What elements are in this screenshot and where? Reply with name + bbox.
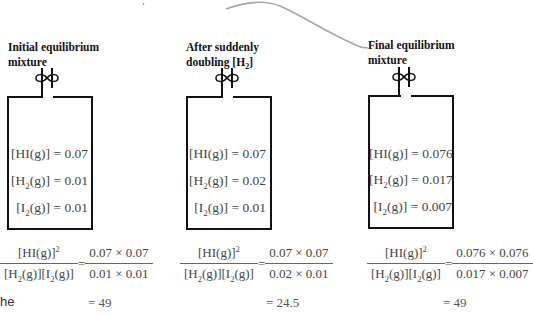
numerator: [HI(g)]2 xyxy=(194,244,244,263)
title-line-1: After suddenly xyxy=(186,40,259,55)
denominator: [H2(g)][I2(g)] xyxy=(180,263,258,284)
conc-hi: [HI(g)] = 0.076 xyxy=(369,146,452,162)
stray-text: he xyxy=(0,294,14,309)
denominator: [H2(g)][I2(g)] xyxy=(367,263,445,284)
equilibrium-expression: [HI(g)]2 [H2(g)][I2(g)] = 0.076 × 0.076 … xyxy=(367,244,533,284)
flask-neck-gap xyxy=(223,88,233,98)
conc-value: 0.007 xyxy=(422,199,452,214)
equals-sign: = xyxy=(258,256,265,272)
equals-sign: = xyxy=(78,256,85,272)
value-fraction: 0.076 × 0.076 0.017 × 0.007 xyxy=(452,245,532,282)
value-fraction: 0.07 × 0.07 0.01 × 0.01 xyxy=(85,245,152,282)
flask-neck-gap xyxy=(401,87,411,97)
numerator-values: 0.076 × 0.076 xyxy=(452,245,532,263)
conc-value: 0.076 xyxy=(422,146,452,161)
result: = 49 xyxy=(88,295,112,311)
conc-i2: [I2(g)] = 0.007 xyxy=(369,199,452,217)
equals-sign: = xyxy=(445,256,452,272)
result: = 24.5 xyxy=(266,295,299,311)
conc-value: 0.07 xyxy=(242,146,266,161)
conc-value: 0.01 xyxy=(64,173,88,188)
numerator: [HI(g)]2 xyxy=(14,244,64,263)
panel-initial: Initial equilibrium mixture [HI(g)] = 0.… xyxy=(0,0,170,314)
conc-i2: [I2(g)] = 0.01 xyxy=(10,200,88,218)
denominator-values: 0.01 × 0.01 xyxy=(85,263,152,282)
conc-hi: [HI(g)] = 0.07 xyxy=(10,146,88,162)
numerator-values: 0.07 × 0.07 xyxy=(265,245,332,263)
equilibrium-expression: [HI(g)]2 [H2(g)][I2(g)] = 0.07 × 0.07 0.… xyxy=(180,244,333,284)
title-line-2: mixture xyxy=(368,53,455,68)
numerator-values: 0.07 × 0.07 xyxy=(85,245,152,263)
conc-value: 0.017 xyxy=(422,172,452,187)
conc-value: 0.07 xyxy=(64,146,88,161)
species-fraction: [HI(g)]2 [H2(g)][I2(g)] xyxy=(0,244,78,284)
panel-final: Final equilibrium mixture [HI(g)] = 0.07… xyxy=(345,0,522,314)
species-fraction: [HI(g)]2 [H2(g)][I2(g)] xyxy=(180,244,258,284)
title-line-1: Initial equilibrium xyxy=(8,40,99,55)
title-line-1: Final equilibrium xyxy=(368,38,455,53)
panel-title: Final equilibrium mixture xyxy=(368,38,455,68)
conc-h2: [H2(g)] = 0.017 xyxy=(369,172,452,190)
panel-title: Initial equilibrium mixture xyxy=(8,40,99,70)
denominator: [H2(g)][I2(g)] xyxy=(0,263,78,284)
conc-value: 0.01 xyxy=(64,200,88,215)
conc-value: 0.02 xyxy=(242,173,266,188)
value-fraction: 0.07 × 0.07 0.02 × 0.01 xyxy=(265,245,332,282)
conc-i2: [I2(g)] = 0.01 xyxy=(188,200,266,218)
equilibrium-expression: [HI(g)]2 [H2(g)][I2(g)] = 0.07 × 0.07 0.… xyxy=(0,244,153,284)
denominator-values: 0.017 × 0.007 xyxy=(452,263,532,282)
numerator: [HI(g)]2 xyxy=(381,244,431,263)
species-fraction: [HI(g)]2 [H2(g)][I2(g)] xyxy=(367,244,445,284)
conc-hi: [HI(g)] = 0.07 xyxy=(188,146,266,162)
flask-neck-gap xyxy=(43,88,53,98)
conc-h2: [H2(g)] = 0.02 xyxy=(188,173,266,191)
panel-after-doubling: After suddenly doubling [H2] [HI(g)] = 0… xyxy=(170,0,345,314)
conc-value: 0.01 xyxy=(242,200,266,215)
conc-h2: [H2(g)] = 0.01 xyxy=(10,173,88,191)
denominator-values: 0.02 × 0.01 xyxy=(265,263,332,282)
result: = 49 xyxy=(443,295,467,311)
